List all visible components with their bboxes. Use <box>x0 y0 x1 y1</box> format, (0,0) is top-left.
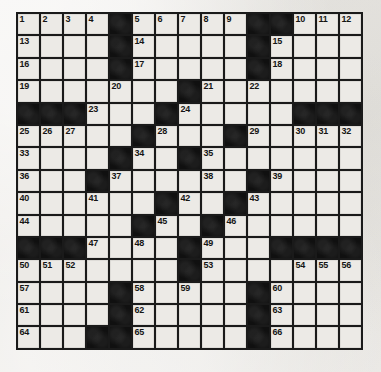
crossword-cell[interactable] <box>64 327 87 349</box>
crossword-cell[interactable]: 63 <box>271 305 294 327</box>
crossword-cell[interactable] <box>87 148 110 170</box>
crossword-cell[interactable]: 46 <box>225 216 248 238</box>
crossword-cell[interactable]: 62 <box>133 305 156 327</box>
crossword-cell[interactable]: 19 <box>18 81 41 103</box>
crossword-cell[interactable] <box>41 171 64 193</box>
crossword-grid[interactable]: 1234567891011121314151617181920212223242… <box>16 12 363 350</box>
crossword-cell[interactable]: 59 <box>179 283 202 305</box>
crossword-cell[interactable] <box>225 305 248 327</box>
crossword-cell[interactable] <box>110 260 133 282</box>
crossword-cell[interactable]: 32 <box>340 126 363 148</box>
crossword-cell[interactable] <box>64 305 87 327</box>
crossword-cell[interactable]: 17 <box>133 59 156 81</box>
crossword-cell[interactable]: 39 <box>271 171 294 193</box>
crossword-cell[interactable] <box>41 283 64 305</box>
crossword-cell[interactable] <box>340 193 363 215</box>
crossword-cell[interactable] <box>317 327 340 349</box>
crossword-cell[interactable]: 37 <box>110 171 133 193</box>
crossword-cell[interactable] <box>340 59 363 81</box>
crossword-cell[interactable] <box>87 260 110 282</box>
crossword-cell[interactable] <box>156 148 179 170</box>
crossword-cell[interactable] <box>317 283 340 305</box>
crossword-cell[interactable] <box>340 216 363 238</box>
crossword-cell[interactable] <box>202 59 225 81</box>
crossword-cell[interactable]: 60 <box>271 283 294 305</box>
crossword-cell[interactable] <box>202 104 225 126</box>
crossword-cell[interactable] <box>133 193 156 215</box>
crossword-cell[interactable] <box>110 126 133 148</box>
crossword-cell[interactable]: 40 <box>18 193 41 215</box>
crossword-cell[interactable] <box>248 104 271 126</box>
crossword-cell[interactable]: 41 <box>87 193 110 215</box>
crossword-cell[interactable] <box>294 216 317 238</box>
crossword-cell[interactable] <box>133 81 156 103</box>
crossword-cell[interactable] <box>156 59 179 81</box>
crossword-cell[interactable] <box>41 305 64 327</box>
crossword-cell[interactable] <box>225 104 248 126</box>
crossword-cell[interactable] <box>156 327 179 349</box>
crossword-cell[interactable] <box>225 260 248 282</box>
crossword-cell[interactable] <box>340 81 363 103</box>
crossword-cell[interactable] <box>41 193 64 215</box>
crossword-cell[interactable]: 66 <box>271 327 294 349</box>
crossword-cell[interactable] <box>87 305 110 327</box>
crossword-cell[interactable]: 7 <box>179 14 202 36</box>
crossword-cell[interactable] <box>133 104 156 126</box>
crossword-cell[interactable] <box>179 305 202 327</box>
crossword-cell[interactable]: 44 <box>18 216 41 238</box>
crossword-cell[interactable] <box>271 148 294 170</box>
crossword-cell[interactable] <box>41 59 64 81</box>
crossword-cell[interactable] <box>317 305 340 327</box>
crossword-cell[interactable]: 64 <box>18 327 41 349</box>
crossword-cell[interactable] <box>87 81 110 103</box>
crossword-cell[interactable] <box>225 59 248 81</box>
crossword-cell[interactable] <box>156 238 179 260</box>
crossword-cell[interactable]: 8 <box>202 14 225 36</box>
crossword-cell[interactable] <box>179 216 202 238</box>
crossword-cell[interactable]: 48 <box>133 238 156 260</box>
crossword-cell[interactable] <box>294 36 317 58</box>
crossword-cell[interactable] <box>202 126 225 148</box>
crossword-cell[interactable] <box>317 59 340 81</box>
crossword-cell[interactable] <box>64 171 87 193</box>
crossword-cell[interactable] <box>156 305 179 327</box>
crossword-cell[interactable] <box>179 126 202 148</box>
crossword-cell[interactable]: 6 <box>156 14 179 36</box>
crossword-cell[interactable]: 25 <box>18 126 41 148</box>
crossword-cell[interactable] <box>179 59 202 81</box>
crossword-cell[interactable] <box>317 81 340 103</box>
crossword-cell[interactable]: 21 <box>202 81 225 103</box>
crossword-cell[interactable] <box>110 193 133 215</box>
crossword-cell[interactable] <box>294 148 317 170</box>
crossword-cell[interactable] <box>271 216 294 238</box>
crossword-cell[interactable]: 29 <box>248 126 271 148</box>
crossword-cell[interactable]: 58 <box>133 283 156 305</box>
crossword-cell[interactable] <box>340 327 363 349</box>
crossword-cell[interactable]: 2 <box>41 14 64 36</box>
crossword-cell[interactable] <box>64 59 87 81</box>
crossword-cell[interactable] <box>41 327 64 349</box>
crossword-cell[interactable] <box>294 327 317 349</box>
crossword-cell[interactable] <box>225 81 248 103</box>
crossword-cell[interactable]: 42 <box>179 193 202 215</box>
crossword-cell[interactable] <box>294 283 317 305</box>
crossword-cell[interactable]: 45 <box>156 216 179 238</box>
crossword-cell[interactable] <box>271 260 294 282</box>
crossword-cell[interactable] <box>340 283 363 305</box>
crossword-cell[interactable] <box>271 81 294 103</box>
crossword-cell[interactable]: 54 <box>294 260 317 282</box>
crossword-cell[interactable] <box>294 81 317 103</box>
crossword-cell[interactable] <box>225 171 248 193</box>
crossword-cell[interactable] <box>156 171 179 193</box>
crossword-cell[interactable] <box>41 81 64 103</box>
crossword-cell[interactable] <box>202 193 225 215</box>
crossword-cell[interactable]: 24 <box>179 104 202 126</box>
crossword-cell[interactable]: 27 <box>64 126 87 148</box>
crossword-cell[interactable]: 61 <box>18 305 41 327</box>
crossword-cell[interactable] <box>202 327 225 349</box>
crossword-cell[interactable]: 38 <box>202 171 225 193</box>
crossword-cell[interactable] <box>317 216 340 238</box>
crossword-cell[interactable] <box>179 36 202 58</box>
crossword-cell[interactable]: 16 <box>18 59 41 81</box>
crossword-cell[interactable] <box>225 283 248 305</box>
